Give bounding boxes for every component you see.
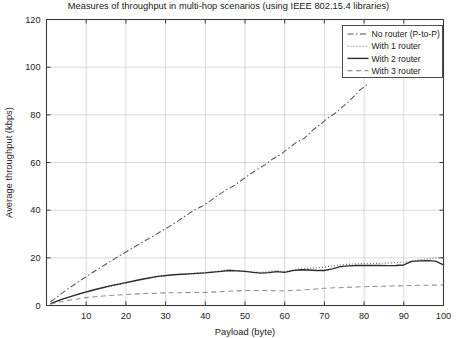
- legend-label-0: No router (P-to-P): [372, 29, 440, 39]
- x-tick-label: 40: [200, 311, 210, 321]
- chart-figure: Measures of throughput in multi-hop scen…: [0, 0, 457, 338]
- y-tick-label: 80: [30, 110, 40, 120]
- throughput-line-chart: 102030405060708090100020406080100120Payl…: [0, 0, 457, 338]
- y-tick-label: 0: [35, 301, 40, 311]
- y-tick-label: 120: [25, 15, 40, 25]
- x-tick-label: 60: [280, 311, 290, 321]
- series-line-3: [50, 285, 443, 304]
- y-tick-label: 20: [30, 253, 40, 263]
- x-tick-label: 30: [160, 311, 170, 321]
- x-tick-label: 20: [121, 311, 131, 321]
- x-tick-label: 80: [359, 311, 369, 321]
- legend-label-1: With 1 router: [372, 41, 421, 51]
- series-line-2: [50, 261, 443, 304]
- y-tick-label: 100: [25, 62, 40, 72]
- x-tick-label: 50: [240, 311, 250, 321]
- y-tick-label: 40: [30, 205, 40, 215]
- x-tick-label: 10: [81, 311, 91, 321]
- y-axis-title: Average throughput (kbps): [3, 107, 14, 218]
- legend-label-3: With 3 router: [372, 66, 421, 76]
- data-series-layer: [50, 84, 443, 304]
- y-tick-label: 60: [30, 158, 40, 168]
- series-line-0: [50, 84, 368, 302]
- series-line-1: [50, 258, 443, 304]
- x-tick-label: 70: [319, 311, 329, 321]
- legend-label-2: With 2 router: [372, 54, 421, 64]
- x-axis-title: Payload (byte): [215, 326, 275, 337]
- x-tick-label: 90: [399, 311, 409, 321]
- chart-legend: No router (P-to-P)With 1 routerWith 2 ro…: [343, 26, 443, 78]
- x-tick-label: 100: [436, 311, 451, 321]
